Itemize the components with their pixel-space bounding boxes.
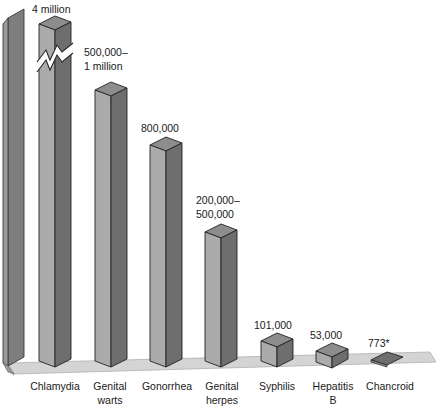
bar-value-label-line2: 1 million	[84, 60, 123, 72]
chart-container: 4 million 500,000– 1 million 800,000 200…	[0, 0, 436, 414]
cat-label-hepatitis-b-line1: Hepatitis	[313, 380, 354, 392]
cat-label-syphilis: Syphilis	[259, 380, 295, 392]
bar-value-label: 4 million	[32, 3, 71, 15]
bar-value-label-line2: 500,000	[196, 208, 234, 220]
left-wall-panel	[3, 9, 24, 374]
bar-side-face	[55, 22, 71, 367]
bar-side-face	[221, 230, 237, 367]
bar-front-face	[95, 90, 111, 367]
bar-front-face	[150, 145, 166, 367]
bar-gonorrhea[interactable]: 800,000	[141, 122, 182, 367]
bar-front-face	[205, 232, 221, 367]
wall-edge	[3, 18, 8, 366]
bar-side-face	[166, 143, 182, 367]
bar-chlamydia[interactable]: 4 million	[32, 3, 73, 367]
bar-hepatitis-b[interactable]: 53,000	[310, 329, 348, 368]
cat-label-chlamydia: Chlamydia	[30, 380, 80, 392]
bar-value-label: 101,000	[254, 319, 292, 331]
bar-genital-herpes[interactable]: 200,000– 500,000	[196, 194, 240, 367]
cat-label-genital-herpes-line1: Genital	[205, 380, 238, 392]
category-axis-labels: Chlamydia Genital warts Gonorrhea Genita…	[30, 380, 414, 406]
bar-side-face	[111, 88, 127, 367]
bar-value-label-line1: 500,000–	[84, 46, 128, 58]
bar-genital-warts[interactable]: 500,000– 1 million	[84, 46, 128, 367]
bar-value-label-line1: 200,000–	[196, 194, 240, 206]
bar-front-face	[39, 24, 55, 367]
cat-label-gonorrhea: Gonorrhea	[142, 380, 192, 392]
cat-label-genital-warts-line1: Genital	[93, 380, 126, 392]
cat-label-genital-herpes-line2: herpes	[206, 394, 238, 406]
cat-label-genital-warts-line2: warts	[96, 394, 122, 406]
bar-value-label: 800,000	[141, 122, 179, 134]
bar-value-label: 53,000	[310, 329, 342, 341]
wall-face	[8, 9, 24, 366]
cat-label-hepatitis-b-line2: B	[329, 394, 336, 406]
cat-label-chancroid: Chancroid	[366, 380, 414, 392]
bar-value-label: 773*	[368, 337, 390, 349]
bar-chart-3d: 4 million 500,000– 1 million 800,000 200…	[0, 0, 436, 414]
